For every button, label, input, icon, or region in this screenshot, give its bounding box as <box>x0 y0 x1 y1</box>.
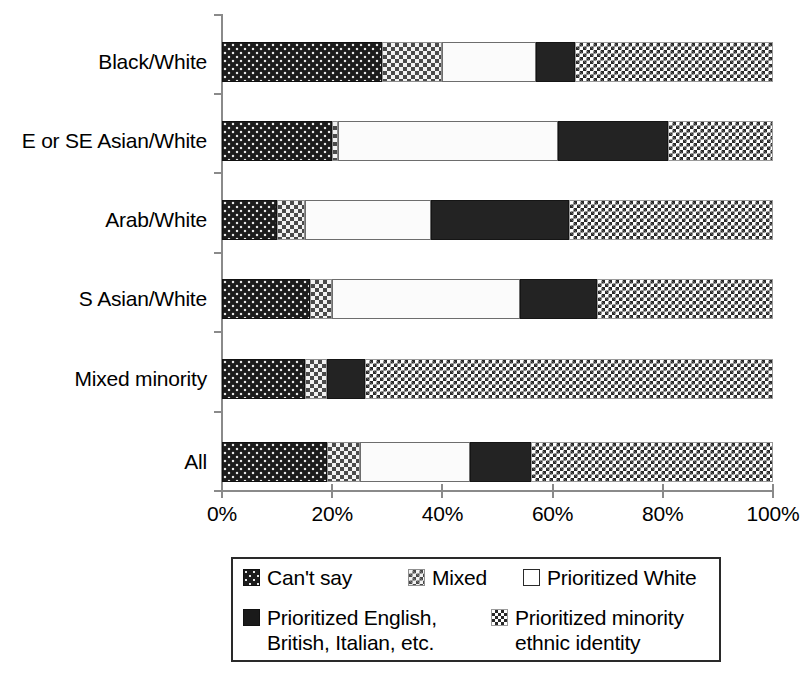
legend-label: Prioritized White <box>547 565 696 590</box>
x-axis-tick <box>221 484 223 498</box>
y-axis-category-label: Mixed minority <box>0 367 207 391</box>
bar-row <box>222 279 773 319</box>
x-axis-tick-label: 0% <box>207 501 237 527</box>
legend-swatch-prioritized-english <box>243 609 260 626</box>
legend: Can't sayMixedPrioritized WhitePrioritiz… <box>231 557 721 662</box>
segment-prioritized-white <box>360 442 470 482</box>
segment-prioritized-minority <box>569 200 773 240</box>
y-axis-tick <box>214 331 222 333</box>
plot-area <box>222 14 773 490</box>
segment-cant-say <box>222 442 327 482</box>
legend-label: Prioritized minority ethnic identity <box>515 605 684 655</box>
segment-prioritized-english-british <box>558 121 668 161</box>
y-axis-category-label: All <box>0 450 207 474</box>
x-axis-tick-label: 80% <box>642 501 683 527</box>
legend-swatch-prioritized-minority <box>491 609 508 626</box>
bar-row <box>222 442 773 482</box>
x-axis-tick <box>662 484 664 498</box>
legend-item: Prioritized White <box>523 565 696 590</box>
legend-swatch-mixed <box>408 569 425 586</box>
y-axis-tick <box>214 411 222 413</box>
segment-mixed <box>277 200 305 240</box>
segment-cant-say <box>222 279 310 319</box>
x-axis-tick-label: 100% <box>747 501 800 527</box>
segment-mixed <box>382 42 443 82</box>
x-axis-tick-label: 40% <box>422 501 463 527</box>
bar-row <box>222 359 773 399</box>
segment-cant-say <box>222 121 332 161</box>
y-axis-tick <box>214 93 222 95</box>
y-axis-category-label: E or SE Asian/White <box>0 129 207 153</box>
x-axis-tick <box>552 484 554 498</box>
segment-prioritized-white <box>442 42 536 82</box>
legend-item: Mixed <box>408 565 487 590</box>
segment-mixed <box>310 279 332 319</box>
segment-prioritized-white <box>305 200 432 240</box>
legend-item: Prioritized minority ethnic identity <box>491 605 684 655</box>
segment-prioritized-white <box>338 121 558 161</box>
segment-prioritized-minority <box>531 442 773 482</box>
bar-row <box>222 200 773 240</box>
legend-swatch-prioritized-white <box>523 569 540 586</box>
x-axis-tick <box>331 484 333 498</box>
segment-mixed <box>305 359 327 399</box>
segment-prioritized-minority <box>668 121 773 161</box>
y-axis-category-label: Arab/White <box>0 208 207 232</box>
segment-mixed <box>327 442 360 482</box>
segment-prioritized-english-british <box>327 359 366 399</box>
bar-row <box>222 121 773 161</box>
legend-swatch-cant-say <box>243 569 260 586</box>
y-axis-tick <box>214 252 222 254</box>
y-axis-category-label: S Asian/White <box>0 287 207 311</box>
segment-prioritized-english-british <box>520 279 597 319</box>
segment-prioritized-minority <box>365 359 773 399</box>
bar-row <box>222 42 773 82</box>
y-axis-tick <box>214 14 222 16</box>
x-axis-line <box>222 490 774 492</box>
segment-prioritized-minority <box>597 279 773 319</box>
stacked-bar-chart: Black/WhiteE or SE Asian/WhiteArab/White… <box>0 0 809 674</box>
segment-prioritized-english-british <box>536 42 575 82</box>
legend-item: Can't say <box>243 565 352 590</box>
segment-prioritized-english-british <box>470 442 531 482</box>
legend-label: Prioritized English, British, Italian, e… <box>267 605 437 655</box>
segment-prioritized-minority <box>575 42 773 82</box>
x-axis-tick-label: 20% <box>311 501 352 527</box>
segment-prioritized-white <box>332 279 519 319</box>
legend-label: Mixed <box>432 565 487 590</box>
x-axis-tick <box>441 484 443 498</box>
y-axis-tick <box>214 172 222 174</box>
legend-item: Prioritized English, British, Italian, e… <box>243 605 437 655</box>
legend-label: Can't say <box>267 565 352 590</box>
segment-cant-say <box>222 42 382 82</box>
segment-prioritized-english-british <box>431 200 569 240</box>
segment-cant-say <box>222 200 277 240</box>
x-axis-tick-label: 60% <box>532 501 573 527</box>
segment-cant-say <box>222 359 305 399</box>
y-axis-category-label: Black/White <box>0 50 207 74</box>
x-axis-tick <box>772 484 774 498</box>
